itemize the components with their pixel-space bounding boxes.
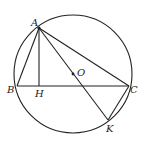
label-o: O — [77, 67, 85, 78]
segment-ab — [17, 28, 39, 86]
label-a: A — [30, 17, 38, 28]
geometry-diagram: A B H O C K — [0, 0, 146, 142]
label-k: K — [105, 123, 114, 134]
label-b: B — [6, 84, 14, 95]
label-h: H — [34, 88, 44, 99]
segment-ck — [108, 86, 129, 120]
label-c: C — [130, 84, 138, 95]
point-o-dot — [72, 73, 75, 76]
